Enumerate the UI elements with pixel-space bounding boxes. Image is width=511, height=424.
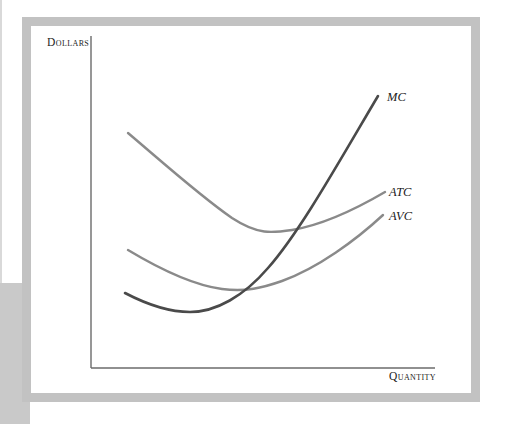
figure-canvas: Dollars Quantity MC ATC AVC [0, 0, 511, 424]
avc-curve-label: AVC [389, 209, 412, 224]
mc-curve-label: MC [387, 90, 406, 105]
y-axis-label: Dollars [47, 36, 89, 48]
atc-curve-label: ATC [389, 185, 411, 200]
x-axis-label: Quantity [389, 370, 436, 382]
